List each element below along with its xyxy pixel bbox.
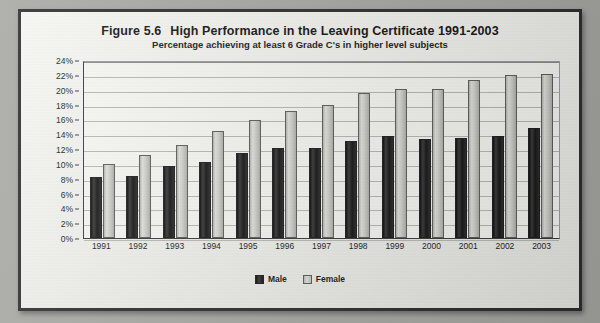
y-axis-tick-mark <box>75 164 79 165</box>
y-axis-tick-label: 2% <box>61 219 73 229</box>
y-axis-tick-mark <box>75 194 79 195</box>
x-axis-tick-label: 1997 <box>303 241 340 251</box>
x-axis-tick-label: 2003 <box>523 241 560 251</box>
x-axis-tick-label: 1998 <box>340 241 377 251</box>
y-axis-tick-label: 12% <box>56 145 73 155</box>
bar-female-2000 <box>432 89 444 238</box>
y-axis-tick-mark <box>75 75 79 76</box>
y-axis-tick-label: 14% <box>56 130 73 140</box>
y-axis-tick-mark <box>75 179 79 180</box>
bar-groups <box>84 62 559 238</box>
y-axis-tick-label: 24% <box>56 56 73 66</box>
bar-group <box>194 62 231 238</box>
x-axis-tick-label: 2002 <box>487 241 524 251</box>
x-axis: 1991199219931994199519961997199819992000… <box>83 241 560 251</box>
y-axis-tick-label: 20% <box>56 86 73 96</box>
bar-group <box>449 62 486 238</box>
y-axis-tick-mark <box>75 120 79 121</box>
y-axis-tick-mark <box>75 239 79 240</box>
y-axis-tick-mark <box>75 90 79 91</box>
x-axis-tick-label: 1992 <box>120 241 157 251</box>
y-axis-tick-label: 0% <box>61 234 73 244</box>
y-axis-tick-mark <box>75 61 79 62</box>
bar-group <box>303 62 340 238</box>
bar-male-2001 <box>455 138 467 238</box>
figure-frame: Figure 5.6High Performance in the Leavin… <box>18 9 582 311</box>
x-axis-tick-label: 2001 <box>450 241 487 251</box>
y-axis-tick-mark <box>75 135 79 136</box>
x-axis-tick-label: 1991 <box>83 241 120 251</box>
bar-male-1999 <box>382 136 394 238</box>
bar-female-1996 <box>285 111 297 238</box>
plot-area <box>83 61 560 239</box>
x-axis-tick-label: 1999 <box>377 241 414 251</box>
bar-female-1995 <box>249 120 261 238</box>
bar-female-1997 <box>322 105 334 239</box>
figure-subtitle: Percentage achieving at least 6 Grade C'… <box>21 39 579 50</box>
scanned-page: Figure 5.6High Performance in the Leavin… <box>0 0 600 323</box>
bar-male-1995 <box>236 153 248 238</box>
figure-title-row: Figure 5.6High Performance in the Leavin… <box>21 21 579 39</box>
bar-group <box>121 62 158 238</box>
bar-male-2002 <box>492 136 504 238</box>
bar-female-2002 <box>505 75 517 238</box>
y-axis-tick-label: 16% <box>56 115 73 125</box>
y-axis-tick-label: 10% <box>56 160 73 170</box>
bar-female-1999 <box>395 89 407 238</box>
legend-label-female: Female <box>316 274 345 284</box>
bar-female-1994 <box>212 131 224 238</box>
y-axis-tick-label: 6% <box>61 190 73 200</box>
figure-number-label: Figure 5.6 <box>101 24 161 38</box>
y-axis-tick-mark <box>75 105 79 106</box>
bar-male-1998 <box>345 141 357 238</box>
x-axis-tick-label: 1993 <box>156 241 193 251</box>
legend-label-male: Male <box>268 274 287 284</box>
bar-male-1994 <box>199 162 211 238</box>
bar-female-1992 <box>139 155 151 238</box>
bar-group <box>376 62 413 238</box>
bar-male-1992 <box>126 176 138 238</box>
y-axis-tick-label: 4% <box>61 204 73 214</box>
y-axis-tick-label: 8% <box>61 175 73 185</box>
bar-male-1991 <box>90 177 102 238</box>
bar-group <box>230 62 267 238</box>
y-axis-tick-mark <box>75 150 79 151</box>
legend-item-female: Female <box>303 274 345 284</box>
chart-legend: Male Female <box>21 274 579 284</box>
y-axis-tick-mark <box>75 209 79 210</box>
legend-swatch-female-icon <box>303 275 312 284</box>
x-axis-tick-label: 1996 <box>266 241 303 251</box>
x-axis-tick-label: 2000 <box>413 241 450 251</box>
bar-male-2003 <box>528 128 540 238</box>
bar-female-1991 <box>103 164 115 238</box>
y-axis-tick-label: 22% <box>56 71 73 81</box>
legend-item-male: Male <box>255 274 287 284</box>
bar-male-2000 <box>419 139 431 238</box>
bar-group <box>84 62 121 238</box>
bar-group <box>340 62 377 238</box>
y-axis-tick-label: 18% <box>56 101 73 111</box>
page-title: High Performance in the Leaving Certific… <box>170 24 498 38</box>
bar-group <box>157 62 194 238</box>
bar-group <box>486 62 523 238</box>
x-axis-tick-label: 1995 <box>230 241 267 251</box>
figure-inner: Figure 5.6High Performance in the Leavin… <box>21 12 579 308</box>
y-axis: 0%2%4%6%8%10%12%14%16%18%20%22%24% <box>21 61 79 239</box>
y-axis-tick-mark <box>75 224 79 225</box>
bar-female-1993 <box>176 145 188 238</box>
bar-female-2001 <box>468 80 480 238</box>
bar-female-2003 <box>541 74 553 238</box>
bar-female-1998 <box>358 93 370 238</box>
legend-swatch-male-icon <box>255 275 264 284</box>
bar-male-1993 <box>163 166 175 238</box>
bar-group <box>522 62 559 238</box>
bar-male-1996 <box>272 148 284 238</box>
bar-group <box>413 62 450 238</box>
bar-male-1997 <box>309 148 321 238</box>
x-axis-tick-label: 1994 <box>193 241 230 251</box>
bar-group <box>267 62 304 238</box>
